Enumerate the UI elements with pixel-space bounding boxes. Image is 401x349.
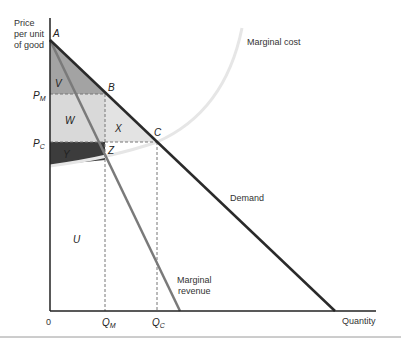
region-x-label: X bbox=[114, 123, 122, 134]
x-axis-label: Quantity bbox=[342, 316, 376, 326]
qm-label: QM bbox=[102, 317, 116, 329]
point-z-label: Z bbox=[107, 145, 115, 156]
point-b-label: B bbox=[108, 82, 115, 93]
pc-label: PC bbox=[33, 138, 46, 150]
origin-label: 0 bbox=[46, 317, 51, 327]
qc-label: QC bbox=[152, 317, 166, 329]
marginal-revenue-line bbox=[50, 40, 180, 311]
demand-line bbox=[50, 40, 335, 311]
point-c-label: C bbox=[154, 127, 162, 138]
y-axis-label: Price per unit of good bbox=[14, 18, 47, 50]
marginal-cost-label: Marginal cost bbox=[247, 37, 301, 47]
marginal-revenue-label: Marginal revenue bbox=[177, 275, 214, 296]
region-w-label: W bbox=[65, 115, 76, 126]
pm-label: PM bbox=[33, 90, 46, 102]
point-a-label: A bbox=[52, 28, 60, 39]
demand-label: Demand bbox=[230, 193, 264, 203]
monopoly-diagram: Price per unit of good PM PC A B C Z V W… bbox=[0, 0, 401, 349]
region-u-label: U bbox=[73, 234, 81, 245]
